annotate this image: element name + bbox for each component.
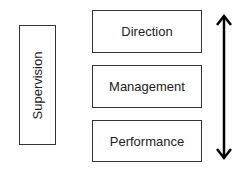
direction-box: Direction — [92, 10, 202, 53]
management-box: Management — [92, 65, 202, 108]
performance-label: Performance — [110, 134, 184, 149]
supervision-box: Supervision — [19, 25, 56, 145]
management-label: Management — [109, 79, 185, 94]
double-headed-arrow-icon — [214, 12, 234, 162]
direction-label: Direction — [121, 24, 172, 39]
supervision-label: Supervision — [30, 51, 45, 119]
performance-box: Performance — [92, 120, 202, 162]
